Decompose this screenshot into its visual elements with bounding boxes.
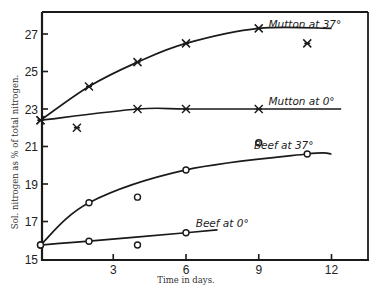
data-point (182, 39, 190, 47)
data-point (86, 238, 92, 244)
x-axis-ticks: 36912 (110, 254, 339, 277)
series-markers (37, 24, 312, 248)
data-point (134, 58, 142, 66)
data-point (183, 230, 189, 236)
data-point (38, 242, 44, 248)
series-labels: Mutton at 37°Mutton at 0°Beef at 37°Beef… (196, 18, 342, 229)
y-tick-label: 27 (25, 28, 39, 42)
x-tick-label: 3 (110, 263, 117, 277)
outlier-point (73, 124, 81, 132)
series-label: Mutton at 37° (268, 18, 341, 30)
data-point (182, 105, 190, 113)
outlier-point (135, 242, 141, 248)
y-tick-label: 15 (25, 253, 39, 267)
series-label: Beef at 0° (196, 217, 249, 229)
y-tick-label: 17 (25, 215, 39, 229)
series-label: Mutton at 0° (268, 95, 334, 107)
x-tick-label: 9 (255, 263, 262, 277)
data-point (37, 116, 45, 124)
outlier-point (303, 39, 311, 47)
outlier-point (135, 194, 141, 200)
data-point (86, 200, 92, 206)
data-point (85, 83, 93, 91)
y-axis-title: Sol. nitrogen as % of total nitrogen. (10, 75, 20, 229)
data-point (255, 24, 263, 32)
series-curves (41, 27, 342, 245)
y-tick-label: 21 (25, 140, 39, 154)
data-point (255, 105, 263, 113)
chart: 36912 15171921232527 Mutton at 37°Mutton… (0, 0, 377, 294)
y-tick-label: 19 (25, 178, 39, 192)
y-axis-ticks: 15171921232527 (25, 28, 48, 267)
data-point (134, 105, 142, 113)
y-tick-label: 23 (25, 103, 39, 117)
data-point (183, 167, 189, 173)
x-axis-title: Time in days. (157, 275, 214, 285)
x-tick-label: 12 (325, 263, 339, 277)
curve-beef-at-0- (41, 230, 218, 245)
y-tick-label: 25 (25, 65, 39, 79)
curve-mutton-at-0- (41, 108, 342, 120)
series-label: Beef at 37° (254, 139, 314, 151)
data-point (304, 151, 310, 157)
